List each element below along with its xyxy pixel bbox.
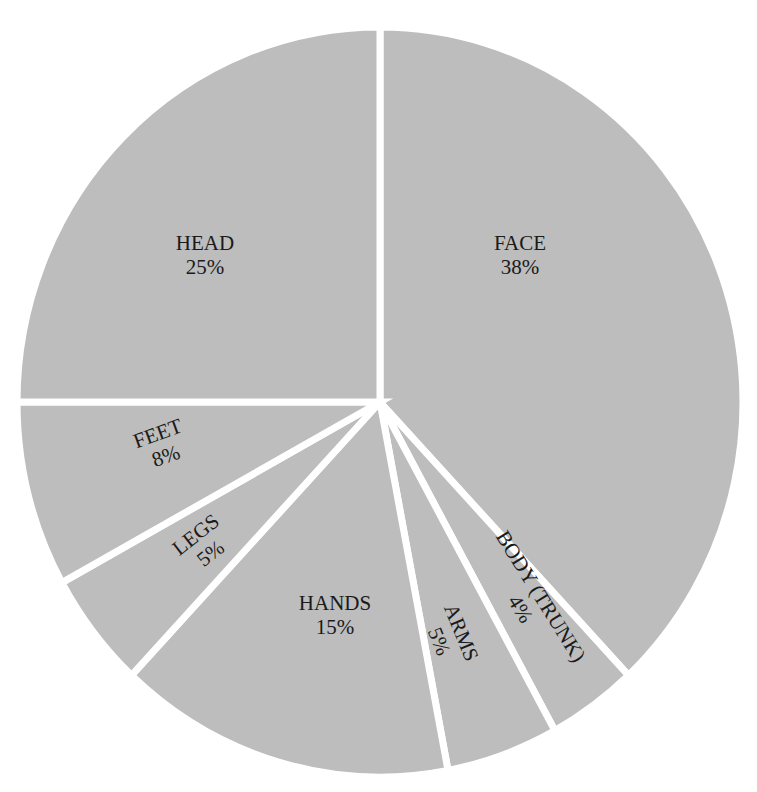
- slice-name: FACE: [494, 231, 546, 255]
- pie-slice-head: [17, 27, 380, 402]
- slice-percent: 38%: [501, 255, 540, 279]
- slice-name: HEAD: [176, 231, 234, 255]
- slice-percent: 25%: [186, 255, 225, 279]
- slice-name: HANDS: [299, 591, 371, 615]
- slice-label-face: FACE38%: [494, 231, 546, 279]
- pie-chart: FACE38%BODY (TRUNK)4%ARMS5%HANDS15%LEGS5…: [0, 0, 757, 792]
- pie-wedges: [17, 27, 743, 777]
- slice-percent: 15%: [316, 615, 355, 639]
